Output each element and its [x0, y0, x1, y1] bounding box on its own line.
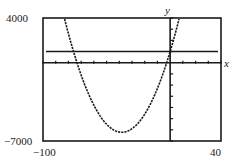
x-max-label: 40 [210, 147, 221, 158]
x-axis-label: x [224, 58, 229, 69]
y-max-label: 4000 [6, 13, 28, 24]
x-min-label: −100 [33, 147, 56, 158]
graph-window [0, 0, 237, 165]
y-min-label: −7000 [4, 136, 32, 147]
parabola-curve [65, 19, 179, 132]
y-axis-label: y [165, 5, 170, 16]
